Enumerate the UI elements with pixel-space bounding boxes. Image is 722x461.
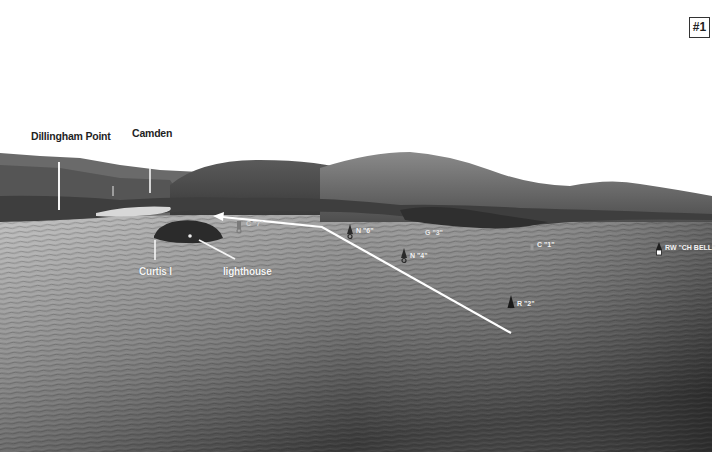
label-camden: Camden: [132, 127, 172, 139]
buoy-rw-ch-bell: [655, 241, 663, 261]
nun-buoy-icon: [400, 248, 408, 264]
buoy-r2: [507, 295, 515, 315]
nun-buoy-icon: [346, 224, 354, 240]
label-lighthouse: lighthouse: [223, 266, 272, 277]
buoy-label-c1: C "1": [537, 241, 555, 248]
bell-buoy-icon: [655, 241, 663, 257]
label-curtis-island: Curtis I: [139, 266, 172, 277]
buoy-label-n4: N "4": [410, 252, 428, 259]
buoy-label-n6: N "6": [356, 227, 374, 234]
buoy-c1: [529, 239, 535, 257]
figure-number-badge: #1: [689, 17, 710, 38]
arrowhead-icon: [213, 212, 224, 221]
nun-buoy-icon: [507, 295, 515, 311]
buoy-label-c7: C "7": [246, 220, 264, 227]
buoy-n6: [346, 224, 354, 244]
can-buoy-icon: [529, 243, 535, 253]
buoy-c7: [235, 219, 243, 239]
buoy-label-g3: G "3": [425, 229, 443, 236]
can-buoy-icon: [235, 219, 243, 235]
buoy-n4: [400, 248, 408, 268]
label-dillingham-point: Dillingham Point: [31, 130, 111, 142]
buoy-label-rw-ch-bell: RW "CH BELL": [665, 244, 715, 251]
buoy-label-r2: R "2": [517, 300, 535, 307]
